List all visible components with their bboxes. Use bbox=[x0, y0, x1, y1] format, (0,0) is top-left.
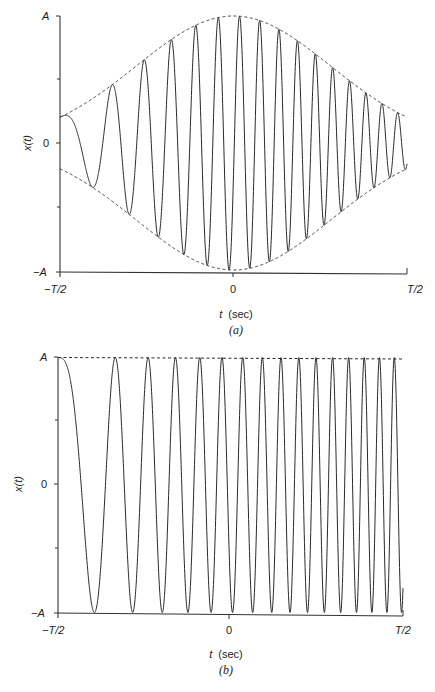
y-axis-label: x(t) bbox=[12, 476, 24, 493]
chart-panel-a: A 0 −A x(t) −T/2 0 T/2 t (sec) (a) bbox=[21, 10, 423, 337]
y-tick-label-bottom: −A bbox=[31, 607, 45, 619]
x-axis-label: t (sec) bbox=[209, 648, 243, 660]
signal-curve bbox=[58, 358, 403, 613]
amplitude-reference-line bbox=[58, 358, 404, 360]
chart-panel-b: A 0 −A x(t) −T/2 0 T/2 t (sec) (b) bbox=[12, 351, 411, 677]
y-tick-label-bottom: −A bbox=[33, 266, 47, 278]
x-axis-label: t (sec) bbox=[219, 308, 253, 320]
x-axis-variable: t bbox=[209, 648, 213, 660]
x-tick-label-left: −T/2 bbox=[44, 283, 66, 295]
panel-caption: (b) bbox=[219, 663, 233, 677]
signal-curve bbox=[60, 16, 407, 270]
x-tick-label-right: T/2 bbox=[407, 283, 423, 295]
x-axis-unit: (sec) bbox=[218, 648, 242, 660]
x-axis-unit: (sec) bbox=[228, 308, 252, 320]
x-tick-label-zero: 0 bbox=[226, 624, 232, 636]
y-tick-label-top: A bbox=[39, 351, 47, 363]
figure: A 0 −A x(t) −T/2 0 T/2 t (sec) (a) A 0 −… bbox=[0, 0, 435, 692]
x-tick-label-right: T/2 bbox=[395, 624, 411, 636]
y-tick-label-zero: 0 bbox=[41, 478, 47, 490]
x-axis bbox=[56, 272, 407, 274]
x-tick-label-left: −T/2 bbox=[42, 624, 64, 636]
y-tick-label-top: A bbox=[41, 10, 49, 22]
panel-caption: (a) bbox=[229, 323, 243, 337]
y-axis-label: x(t) bbox=[21, 135, 33, 152]
y-tick-label-zero: 0 bbox=[43, 137, 49, 149]
envelope-upper bbox=[60, 16, 407, 117]
x-tick-label-zero: 0 bbox=[230, 283, 236, 295]
x-axis-variable: t bbox=[219, 308, 223, 320]
